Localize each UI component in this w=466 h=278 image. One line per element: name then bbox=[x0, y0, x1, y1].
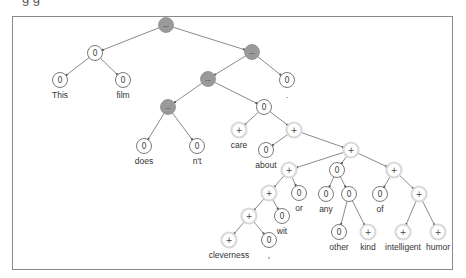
tree-node-neutral: 0other bbox=[329, 225, 349, 252]
tree-edge bbox=[245, 112, 258, 124]
node-sentiment-label: − bbox=[164, 103, 172, 113]
tree-edge bbox=[148, 113, 164, 138]
tree-edge bbox=[103, 28, 159, 50]
node-sentiment-label: 0 bbox=[279, 212, 284, 221]
tree-node-positive: + bbox=[262, 186, 277, 201]
tree-edge bbox=[172, 113, 191, 139]
tree-edge bbox=[273, 200, 278, 209]
parse-tree: −00This0film−0.−−0does0n't0+care+0about+… bbox=[0, 0, 466, 278]
node-sentiment-label: + bbox=[246, 212, 253, 221]
leaf-word: kind bbox=[360, 242, 376, 252]
leaf-word: does bbox=[135, 156, 153, 166]
node-sentiment-label: 0 bbox=[92, 49, 97, 58]
node-sentiment-label: 0 bbox=[194, 142, 199, 151]
tree-edge bbox=[67, 58, 89, 75]
tree-edge bbox=[422, 201, 434, 225]
tree-edge bbox=[399, 175, 412, 188]
node-sentiment-label: 0 bbox=[261, 103, 266, 112]
tree-node-neutral: 0This bbox=[52, 73, 68, 100]
tree-node-negative: − bbox=[201, 72, 216, 87]
tree-node-negative: − bbox=[159, 18, 174, 33]
leaf-word: n't bbox=[193, 156, 202, 166]
tree-edge bbox=[292, 177, 296, 185]
tree-node-positive: + bbox=[287, 123, 302, 138]
tree-node-positive: +cleverness bbox=[209, 233, 250, 260]
tree-edge bbox=[173, 27, 244, 49]
tree-edge bbox=[215, 82, 257, 103]
node-sentiment-label: 0 bbox=[57, 76, 62, 85]
leaf-word: intelligent bbox=[385, 242, 422, 252]
tree-edge bbox=[100, 58, 116, 74]
node-sentiment-label: 0 bbox=[120, 76, 125, 85]
tree-node-positive: +humor bbox=[426, 225, 450, 252]
tree-edge bbox=[234, 222, 244, 234]
tree-node-neutral: 0about bbox=[255, 143, 277, 170]
tree-node-neutral: 0 bbox=[330, 163, 345, 178]
tree-edge bbox=[215, 56, 245, 75]
leaf-word: other bbox=[329, 242, 349, 252]
tree-node-positive: + bbox=[412, 187, 427, 202]
tree-node-positive: + bbox=[282, 163, 297, 178]
tree-node-neutral: 0wit bbox=[275, 209, 290, 236]
tree-edge bbox=[358, 153, 386, 166]
leaf-word: This bbox=[52, 90, 68, 100]
leaf-word: humor bbox=[426, 242, 450, 252]
tree-edge bbox=[342, 156, 347, 163]
tree-node-positive: + bbox=[387, 163, 402, 178]
node-sentiment-label: + bbox=[236, 126, 243, 135]
tree-node-negative: − bbox=[161, 100, 176, 115]
leaf-word: of bbox=[376, 204, 384, 214]
node-sentiment-label: − bbox=[204, 75, 212, 85]
node-sentiment-label: + bbox=[226, 236, 233, 245]
node-sentiment-label: + bbox=[291, 126, 298, 135]
leaf-word: wit bbox=[276, 226, 288, 236]
node-sentiment-label: 0 bbox=[284, 76, 289, 85]
node-sentiment-label: + bbox=[400, 228, 407, 237]
tree-edge bbox=[384, 176, 390, 186]
tree-node-neutral: 0of bbox=[373, 187, 388, 214]
tree-edge bbox=[254, 222, 264, 234]
leaf-word: film bbox=[116, 90, 129, 100]
tree-node-positive: +intelligent bbox=[385, 225, 422, 252]
leaf-word: or bbox=[295, 203, 303, 213]
node-sentiment-label: 0 bbox=[323, 190, 328, 199]
tree-edge bbox=[341, 201, 347, 224]
leaf-word: . bbox=[286, 90, 288, 100]
node-sentiment-label: + bbox=[391, 166, 398, 175]
tree-node-neutral: 0 bbox=[257, 100, 272, 115]
node-sentiment-label: 0 bbox=[377, 190, 382, 199]
tree-node-positive: + bbox=[242, 209, 257, 224]
tree-edge bbox=[270, 112, 287, 125]
tree-edge bbox=[275, 176, 285, 187]
tree-node-positive: + bbox=[344, 143, 359, 158]
node-sentiment-label: 0 bbox=[336, 228, 341, 237]
leaf-word: about bbox=[255, 160, 277, 170]
node-sentiment-label: 0 bbox=[263, 146, 268, 155]
tree-edge bbox=[255, 199, 265, 210]
node-sentiment-label: 0 bbox=[266, 236, 271, 245]
tree-node-negative: − bbox=[245, 45, 260, 60]
tree-node-neutral: 0does bbox=[135, 139, 153, 166]
tree-edge bbox=[406, 201, 416, 224]
tree-node-neutral: 0 bbox=[88, 46, 103, 61]
tree-edge bbox=[330, 177, 334, 186]
node-sentiment-label: + bbox=[348, 146, 355, 155]
node-sentiment-label: 0 bbox=[334, 166, 339, 175]
node-sentiment-label: + bbox=[286, 166, 293, 175]
tree-node-neutral: 0any bbox=[319, 187, 334, 214]
leaf-word: cleverness bbox=[209, 250, 250, 260]
tree-node-neutral: 0 bbox=[342, 187, 357, 202]
tree-edge bbox=[273, 134, 288, 145]
tree-edge bbox=[301, 132, 343, 147]
node-sentiment-label: − bbox=[162, 21, 170, 31]
tree-node-neutral: 0n't bbox=[190, 139, 205, 166]
tree-node-positive: +kind bbox=[360, 225, 376, 252]
tree-edge bbox=[258, 57, 281, 75]
tree-node-neutral: 0film bbox=[116, 73, 131, 100]
node-sentiment-label: − bbox=[248, 48, 256, 58]
tree-edge bbox=[352, 201, 364, 225]
leaf-word: any bbox=[319, 204, 333, 214]
node-sentiment-label: + bbox=[435, 228, 442, 237]
node-sentiment-label: 0 bbox=[296, 189, 301, 198]
tree-node-neutral: 0or bbox=[292, 186, 307, 213]
